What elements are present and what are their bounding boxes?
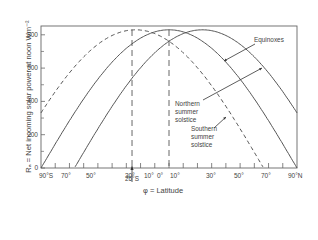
y-tick-label: 200 bbox=[16, 131, 38, 138]
annotation-arrows bbox=[203, 44, 262, 128]
x-tick-label: 90°N bbox=[288, 172, 303, 179]
x-tick-label: 0° bbox=[157, 172, 163, 179]
annotation-southern-summer-solstice: Southern summer solstice bbox=[191, 125, 217, 149]
x-tick-label: 90°S bbox=[39, 172, 53, 179]
x-tick-label: 70° bbox=[61, 172, 71, 179]
x-tick-label: 30° bbox=[206, 172, 216, 179]
x-tick-label: 70° bbox=[261, 172, 271, 179]
x-tick-label: 10° bbox=[144, 172, 154, 179]
marker-label-26s: 26°S bbox=[125, 175, 139, 183]
marker-lines bbox=[130, 30, 169, 182]
series-northern-summer-solstice bbox=[75, 30, 297, 167]
annotation-northern-summer-solstice: Northern summer solstice bbox=[175, 100, 200, 124]
y-tick-label: 600 bbox=[16, 64, 38, 71]
x-tick-label: 50° bbox=[234, 172, 244, 179]
series-southern-summer-solstice bbox=[41, 30, 263, 167]
x-tick-label: 50° bbox=[86, 172, 96, 179]
y-tick-label: 800 bbox=[16, 31, 38, 38]
x-tick-label: 10° bbox=[170, 172, 180, 179]
annotation-equinoxes: Equinoxes bbox=[254, 36, 284, 44]
x-axis-label: φ = Latitude bbox=[143, 186, 183, 195]
y-tick-label: 0 bbox=[16, 164, 38, 171]
y-tick-label: 400 bbox=[16, 97, 38, 104]
plot-frame bbox=[41, 26, 297, 168]
